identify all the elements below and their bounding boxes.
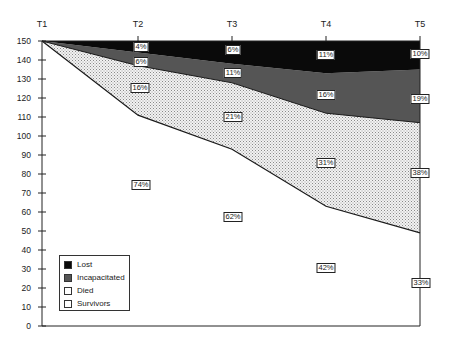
pct-label-t4-incapacitated: 16% bbox=[316, 90, 335, 100]
svg-text:70: 70 bbox=[22, 188, 32, 198]
svg-text:20: 20 bbox=[22, 283, 32, 293]
pct-label-t5-died: 38% bbox=[410, 168, 429, 178]
legend-item-incapacitated: Incapacitated bbox=[64, 271, 129, 284]
svg-text:10: 10 bbox=[22, 302, 32, 312]
died-swatch-icon bbox=[64, 287, 72, 295]
pct-label-t4-died: 31% bbox=[316, 158, 335, 168]
legend-label: Survivors bbox=[77, 299, 110, 308]
svg-text:T1: T1 bbox=[37, 19, 48, 29]
pct-label-t3-survivors: 62% bbox=[223, 212, 242, 222]
svg-text:60: 60 bbox=[22, 207, 32, 217]
incapacitated-swatch-icon bbox=[64, 274, 72, 282]
svg-text:110: 110 bbox=[17, 112, 31, 122]
pct-label-t3-died: 21% bbox=[223, 112, 242, 122]
legend-label: Lost bbox=[77, 260, 92, 269]
pct-label-t3-lost: 6% bbox=[226, 45, 241, 55]
svg-text:140: 140 bbox=[17, 55, 31, 65]
x-ticks bbox=[138, 36, 326, 41]
legend-item-lost: Lost bbox=[64, 258, 129, 271]
pct-label-t5-lost: 10% bbox=[410, 49, 429, 59]
svg-text:80: 80 bbox=[22, 169, 32, 179]
pct-label-t3-incapacitated: 11% bbox=[224, 68, 242, 78]
svg-text:T4: T4 bbox=[321, 19, 332, 29]
svg-text:T5: T5 bbox=[415, 19, 426, 29]
svg-text:120: 120 bbox=[17, 93, 31, 103]
pct-label-t2-incapacitated: 6% bbox=[134, 57, 149, 67]
svg-text:T3: T3 bbox=[227, 19, 238, 29]
svg-text:0: 0 bbox=[26, 321, 31, 331]
pct-label-t5-survivors: 33% bbox=[411, 278, 430, 288]
y-tick-labels: 0 10 20 30 40 50 60 70 80 90 100 110 120… bbox=[17, 36, 31, 331]
time-labels: T1 T2 T3 T4 T5 bbox=[37, 19, 426, 29]
svg-text:50: 50 bbox=[22, 226, 32, 236]
pct-label-t5-incapacitated: 19% bbox=[410, 94, 429, 104]
survivors-swatch-icon bbox=[64, 300, 72, 308]
svg-text:30: 30 bbox=[22, 264, 32, 274]
legend-label: Incapacitated bbox=[77, 273, 125, 282]
pct-label-t2-lost: 4% bbox=[134, 42, 149, 52]
legend-item-survivors: Survivors bbox=[64, 297, 129, 310]
svg-text:130: 130 bbox=[17, 74, 31, 84]
pct-label-t2-died: 16% bbox=[130, 83, 149, 93]
svg-text:T2: T2 bbox=[133, 19, 144, 29]
legend-item-died: Died bbox=[64, 284, 129, 297]
chart-legend: Lost Incapacitated Died Survivors bbox=[59, 255, 130, 311]
svg-text:100: 100 bbox=[17, 131, 31, 141]
svg-text:40: 40 bbox=[22, 245, 32, 255]
lost-swatch-icon bbox=[64, 261, 72, 269]
svg-text:150: 150 bbox=[17, 36, 31, 46]
pct-label-t4-lost: 11% bbox=[317, 50, 335, 60]
legend-label: Died bbox=[77, 286, 93, 295]
pct-label-t4-survivors: 42% bbox=[316, 263, 335, 273]
pct-label-t2-survivors: 74% bbox=[131, 180, 150, 190]
svg-text:90: 90 bbox=[22, 150, 32, 160]
